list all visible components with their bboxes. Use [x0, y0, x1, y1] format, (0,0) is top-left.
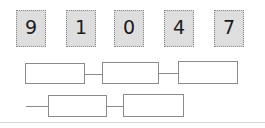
box-connector-line — [159, 73, 178, 74]
digit-tile-0[interactable]: 0 — [114, 10, 144, 47]
digit-tile-1[interactable]: 1 — [66, 10, 96, 47]
answer-box[interactable] — [123, 94, 184, 117]
digit-tile-row: 9 1 0 4 7 — [0, 0, 265, 56]
answer-box[interactable] — [25, 63, 85, 84]
worksheet-canvas: 9 1 0 4 7 — [0, 0, 265, 128]
digit-tile-7[interactable]: 7 — [214, 10, 244, 47]
digit-tile-label: 7 — [223, 18, 235, 37]
digit-tile-label: 9 — [25, 18, 37, 37]
row-lead-line — [26, 106, 48, 107]
box-connector-line — [107, 106, 123, 107]
digit-tile-9[interactable]: 9 — [16, 10, 46, 47]
answer-box[interactable] — [178, 61, 238, 84]
page-base-rule — [0, 122, 265, 123]
digit-tile-face: 7 — [216, 12, 242, 45]
digit-tile-label: 4 — [173, 18, 185, 37]
digit-tile-label: 0 — [123, 18, 135, 37]
digit-tile-face: 9 — [18, 12, 44, 45]
answer-box[interactable] — [48, 95, 107, 117]
digit-tile-face: 4 — [166, 12, 192, 45]
digit-tile-4[interactable]: 4 — [164, 10, 194, 47]
digit-tile-face: 1 — [68, 12, 94, 45]
box-connector-line — [85, 74, 102, 75]
answer-box[interactable] — [102, 62, 159, 84]
digit-tile-face: 0 — [116, 12, 142, 45]
digit-tile-label: 1 — [75, 18, 87, 37]
